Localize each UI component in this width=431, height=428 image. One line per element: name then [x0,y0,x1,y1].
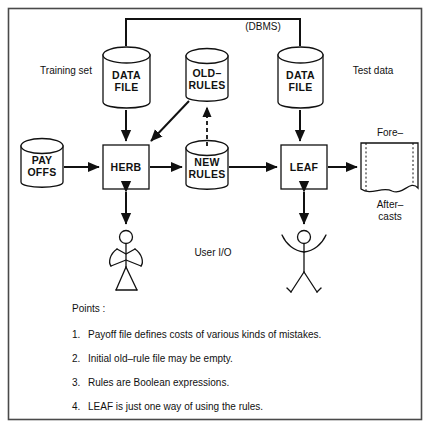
node-herb: HERB [103,145,149,189]
aftercasts-label-line1: After– [377,199,404,210]
point-4-text: LEAF is just one way of using the rules. [88,401,263,412]
node-new-rules: NEW RULES [186,141,228,190]
data-file-left-line1: DATA [112,69,141,81]
training-set-label: Training set [40,65,92,76]
node-leaf: LEAF [281,145,327,189]
new-rules-line1: NEW [194,156,219,168]
stick-figure-herb-user [110,231,143,291]
point-2-text: Initial old–rule file may be empty. [88,353,233,364]
payoffs-line2: OFFS [27,166,56,178]
old-rules-line2: RULES [188,79,225,91]
points-block: Points : 1. Payoff file defines costs of… [72,303,321,412]
point-1-number: 1. [72,329,80,340]
point-4-number: 4. [72,401,80,412]
node-old-rules: OLD– RULES [186,49,228,102]
node-payoffs: PAY OFFS [21,139,63,188]
data-file-right-line2: FILE [289,81,313,93]
test-data-label: Test data [353,65,394,76]
node-data-file-right: DATA FILE [278,47,323,108]
payoffs-line1: PAY [32,154,53,166]
system-diagram: (DBMS) Training set Test data User I/O D… [0,0,431,428]
diagram-page: (DBMS) Training set Test data User I/O D… [0,0,431,428]
aftercasts-label-line2: casts [378,211,401,222]
new-rules-line2: RULES [188,168,225,180]
stick-figure-leaf-user [282,231,326,293]
arrow-old-rules-to-herb [151,101,189,141]
point-1-text: Payoff file defines costs of various kin… [88,329,321,340]
points-heading: Points : [72,303,105,314]
data-file-right-line1: DATA [286,69,315,81]
old-rules-line1: OLD– [192,67,221,79]
node-output-document: Fore– After– casts [361,127,418,222]
dbms-label: (DBMS) [245,21,281,32]
forecasts-label: Fore– [377,127,404,138]
node-data-file-left: DATA FILE [103,47,150,108]
point-2-number: 2. [72,353,80,364]
data-file-left-line2: FILE [115,81,139,93]
herb-label: HERB [111,161,142,173]
user-io-label: User I/O [194,247,231,258]
point-3-number: 3. [72,377,80,388]
point-3-text: Rules are Boolean expressions. [88,377,229,388]
leaf-label: LEAF [290,161,319,173]
